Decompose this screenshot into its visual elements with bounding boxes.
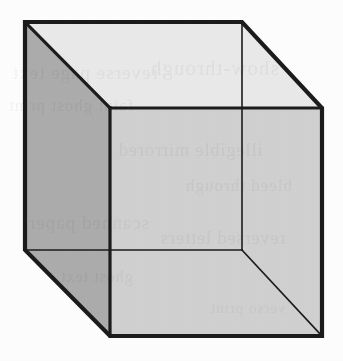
necker-cube-figure — [0, 0, 343, 361]
figure-container: reverse page textshow-throughfaint ghost… — [0, 0, 343, 361]
